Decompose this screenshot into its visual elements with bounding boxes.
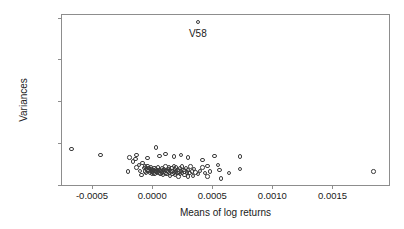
data-point	[127, 155, 131, 159]
data-point	[126, 169, 130, 173]
y-axis-title-wrapper: Variances	[0, 14, 16, 186]
x-axis-tick	[212, 185, 213, 189]
y-axis-title: Variances	[18, 78, 29, 122]
data-point	[133, 157, 137, 161]
data-point	[217, 168, 221, 172]
data-point	[208, 169, 212, 173]
scatter-plot-figure: Variances V58 0.00000.00050.00100.00150.…	[0, 0, 404, 229]
data-point	[179, 153, 183, 157]
y-axis-tick	[58, 59, 62, 60]
data-point	[163, 152, 167, 156]
y-axis-tick	[58, 185, 62, 186]
data-point	[172, 154, 176, 158]
y-axis-tick	[58, 18, 62, 19]
data-point	[69, 147, 73, 151]
x-axis-tick-label: 0.0010	[258, 191, 287, 201]
data-point	[205, 164, 209, 168]
x-axis-tick	[272, 185, 273, 189]
data-point	[216, 163, 220, 167]
x-axis-tick-label: 0.0015	[318, 191, 347, 201]
data-point	[238, 154, 242, 158]
x-axis-tick-label: 0.0005	[198, 191, 227, 201]
y-axis-tick	[58, 143, 62, 144]
data-point	[186, 174, 190, 178]
data-point	[212, 154, 216, 158]
data-point	[186, 155, 190, 159]
data-point	[200, 165, 204, 169]
data-point	[200, 158, 204, 162]
x-axis-tick	[332, 185, 333, 189]
data-point	[371, 169, 375, 173]
data-point	[98, 153, 102, 157]
x-axis-tick-label: 0.0000	[138, 191, 167, 201]
data-point	[157, 154, 161, 158]
data-point	[205, 174, 209, 178]
x-axis-tick-label: -0.0005	[76, 191, 108, 201]
data-point	[219, 176, 223, 180]
data-point	[196, 20, 200, 24]
data-point-annotation: V58	[189, 28, 207, 39]
data-point	[145, 156, 149, 160]
data-point	[227, 171, 231, 175]
data-point	[154, 145, 158, 149]
data-point	[134, 153, 138, 157]
plot-area: V58	[62, 15, 389, 185]
data-point	[238, 167, 242, 171]
x-axis-title: Means of log returns	[61, 207, 390, 218]
y-axis-tick	[58, 101, 62, 102]
plot-frame: V58 0.00000.00050.00100.00150.0020-0.000…	[61, 14, 390, 186]
x-axis-tick	[92, 185, 93, 189]
x-axis-tick	[152, 185, 153, 189]
